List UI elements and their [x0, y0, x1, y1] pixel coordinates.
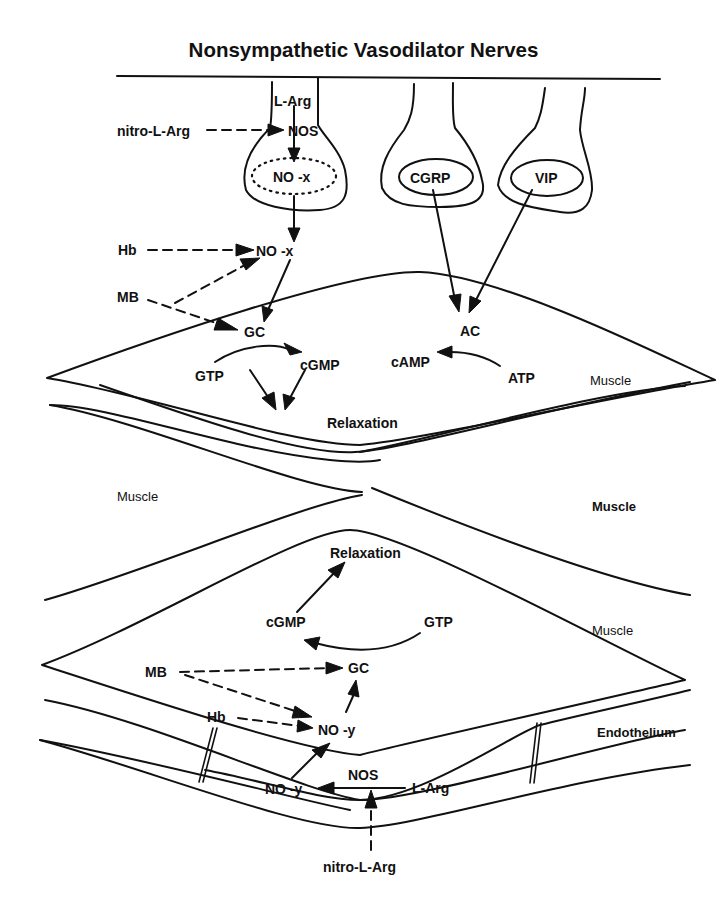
hb-label-upper: Hb [118, 243, 137, 257]
endothelium-upper-edge [45, 700, 685, 800]
muscle-label-middle-left: Muscle [117, 490, 158, 503]
l-arg-label-endothelium: L-Arg [412, 781, 449, 795]
middle-boundary-lower-left [45, 495, 362, 600]
middle-boundary-lower-right [372, 488, 690, 595]
nos-label-endothelium: NOS [348, 768, 378, 782]
nos-label-nerve: NOS [288, 124, 318, 138]
gc-label-lower: GC [348, 661, 369, 675]
cell-junction-left-b [203, 728, 217, 782]
cgrp-label: CGRP [410, 171, 450, 185]
muscle-label-lower: Muscle [592, 624, 633, 637]
nerve-membrane-line [117, 76, 660, 79]
nitro-l-arg-label-nerve: nitro-L-Arg [117, 124, 190, 138]
lower-muscle-outline [42, 530, 685, 755]
gc-label-upper: GC [244, 325, 265, 339]
camp-label: cAMP [391, 355, 430, 369]
mb-label-lower: MB [145, 665, 167, 679]
cell-junction-right-a [530, 723, 537, 783]
gtp-label-upper: GTP [195, 369, 224, 383]
l-arg-label-nerve: L-Arg [274, 94, 311, 108]
gtp-label-lower: GTP [424, 615, 453, 629]
middle-boundary-upper-right [360, 386, 685, 452]
vip-label: VIP [535, 171, 558, 185]
cgmp-label-upper: cGMP [300, 358, 340, 372]
no-y-product-label: NO -y [265, 782, 302, 796]
diagram-title: Nonsympathetic Vasodilator Nerves [0, 38, 727, 62]
hb-label-lower: Hb [207, 710, 226, 724]
no-x-released-label: NO -x [256, 244, 293, 258]
ac-label: AC [460, 324, 480, 338]
relaxation-label-upper: Relaxation [327, 416, 398, 430]
nitro-l-arg-label-endothelium: nitro-L-Arg [323, 860, 396, 874]
cell-junction-right-b [534, 723, 541, 783]
endothelium-mid-edge [40, 740, 350, 810]
muscle-label-middle-right: Muscle [592, 500, 636, 513]
atp-label: ATP [508, 371, 535, 385]
cell-junction-left-a [199, 728, 213, 782]
no-x-vesicle-label: NO -x [273, 170, 310, 184]
cgrp-terminal-outline [381, 83, 483, 207]
mb-label-upper: MB [117, 290, 139, 304]
vip-terminal-outline [498, 88, 592, 213]
relaxation-label-lower: Relaxation [330, 546, 401, 560]
cgmp-label-lower: cGMP [266, 615, 306, 629]
no-y-released-label: NO -y [318, 723, 355, 737]
endothelium-label: Endothelium [597, 726, 676, 739]
muscle-label-upper: Muscle [590, 374, 631, 387]
